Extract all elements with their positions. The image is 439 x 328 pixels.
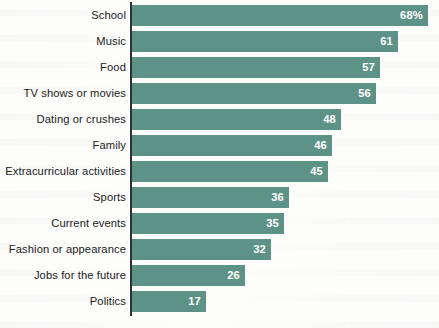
bar-row: Food57 (0, 57, 439, 78)
bar (132, 83, 376, 104)
bar-value-label: 26 (215, 265, 240, 286)
bar-value-label: 61 (368, 31, 393, 52)
bar-value-label: 46 (302, 135, 327, 156)
bar (132, 31, 398, 52)
bar-row: Sports36 (0, 187, 439, 208)
bar-value-label: 57 (350, 57, 375, 78)
category-label: Food (100, 57, 126, 78)
bar-row: School68% (0, 5, 439, 26)
bar-value-label: 35 (254, 213, 279, 234)
bar-chart: School68%Music61Food57TV shows or movies… (0, 0, 439, 328)
bar-value-label: 45 (298, 161, 323, 182)
bar-value-label: 36 (259, 187, 284, 208)
bar (132, 109, 341, 130)
bar-value-label: 56 (346, 83, 371, 104)
category-label: Music (96, 31, 126, 52)
bar-row: Music61 (0, 31, 439, 52)
bar-row: Jobs for the future26 (0, 265, 439, 286)
category-label: Extracurricular activities (5, 161, 126, 182)
bar (132, 5, 428, 26)
bar (132, 57, 380, 78)
category-label: Dating or crushes (37, 109, 126, 130)
category-label: Family (92, 135, 126, 156)
category-label: TV shows or movies (23, 83, 126, 104)
bar-row: Politics17 (0, 291, 439, 312)
category-label: Sports (93, 187, 126, 208)
bar-row: Current events35 (0, 213, 439, 234)
bar-value-label: 32 (241, 239, 266, 260)
bar-row: Fashion or appearance32 (0, 239, 439, 260)
category-label: Current events (51, 213, 126, 234)
category-label: Jobs for the future (34, 265, 126, 286)
bar-value-label: 68% (398, 5, 423, 26)
bar-row: TV shows or movies56 (0, 83, 439, 104)
category-label: School (91, 5, 126, 26)
plot-area: School68%Music61Food57TV shows or movies… (0, 0, 439, 328)
category-label: Politics (90, 291, 126, 312)
bar-row: Dating or crushes48 (0, 109, 439, 130)
bar-row: Extracurricular activities45 (0, 161, 439, 182)
bar-value-label: 48 (311, 109, 336, 130)
bar-value-label: 17 (176, 291, 201, 312)
bar-row: Family46 (0, 135, 439, 156)
category-label: Fashion or appearance (9, 239, 126, 260)
